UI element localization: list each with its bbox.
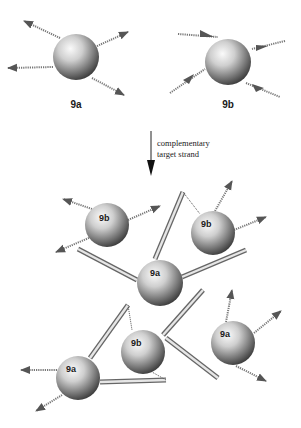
nanoparticle-sphere xyxy=(191,211,235,255)
nanoparticle-sphere xyxy=(205,39,251,85)
arrow-caption-line1: complementary xyxy=(157,138,211,148)
dna-strand xyxy=(95,32,128,47)
down-arrow-icon xyxy=(147,160,155,176)
dna-strand xyxy=(24,21,60,38)
particle-label: 9b xyxy=(131,338,142,348)
particle-label: 9a xyxy=(220,329,231,339)
particle-9b-free xyxy=(170,30,285,97)
strand-arrowhead-icon xyxy=(252,84,264,92)
particle-label: 9b xyxy=(99,213,110,223)
particle-label: 9b xyxy=(201,219,212,229)
particle-label: 9a xyxy=(66,364,77,374)
dna-strand xyxy=(246,83,280,97)
nanoparticle-sphere xyxy=(53,34,99,80)
assembled-network: 9b 9b 9a 9b 9a 9a xyxy=(56,203,255,400)
arrow-caption-line2: target strand xyxy=(157,149,200,159)
particle-label-9b: 9b xyxy=(222,99,234,110)
particle-label: 9a xyxy=(150,268,161,278)
nanoparticle-sphere xyxy=(121,330,165,374)
strand-arrowhead-icon xyxy=(200,30,214,37)
nanoparticle-sphere xyxy=(211,321,255,365)
nanoparticle-sphere xyxy=(137,260,183,306)
particle-9a-free xyxy=(8,21,128,95)
strand-arrowhead-icon xyxy=(256,45,268,51)
reaction-arrow xyxy=(147,131,155,176)
dna-strand xyxy=(92,78,124,95)
nanoparticle-sphere xyxy=(56,356,100,400)
particle-label-9a: 9a xyxy=(70,99,82,110)
dna-strand xyxy=(8,67,53,68)
nanoparticle-sphere xyxy=(85,203,129,247)
nanoparticle-assembly-diagram: 9a 9b complementary target strand xyxy=(0,0,301,428)
